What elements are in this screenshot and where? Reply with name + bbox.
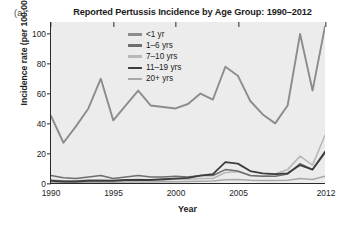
y-axis-tick-mark	[47, 63, 52, 64]
x-axis-tick-mark	[50, 22, 51, 27]
series-line	[51, 153, 325, 178]
y-axis-tick-mark	[47, 93, 52, 94]
chart-title: Reported Pertussis Incidence by Age Grou…	[50, 7, 335, 17]
legend-item[interactable]: 11–19 yrs	[128, 63, 181, 72]
x-axis-tick-mark	[113, 22, 114, 27]
legend-item[interactable]: 1–6 yrs	[128, 41, 181, 50]
y-axis-label: Incidence rate (per 100,000)	[19, 0, 29, 129]
legend-label: 11–19 yrs	[146, 63, 181, 72]
y-axis-tick-mark	[47, 33, 52, 34]
x-axis-tick-label: 1995	[104, 183, 123, 198]
legend-color-swatch	[128, 33, 142, 36]
legend-color-swatch	[128, 44, 142, 46]
x-axis-tick-label: 2005	[229, 183, 248, 198]
x-axis-tick-mark	[238, 22, 239, 27]
series-line	[51, 26, 325, 142]
y-axis-tick-mark	[47, 123, 52, 124]
legend-color-swatch	[128, 55, 142, 57]
x-axis-tick-mark	[325, 22, 326, 27]
legend-item[interactable]: 20+ yrs	[128, 74, 181, 83]
figure-panel: (a) Reported Pertussis Incidence by Age …	[0, 0, 342, 227]
x-axis-tick-mark	[175, 22, 176, 27]
legend-label: <1 yr	[146, 30, 164, 39]
legend-item[interactable]: <1 yr	[128, 30, 181, 39]
legend-color-swatch	[128, 67, 142, 70]
x-axis-tick-label: 1990	[42, 183, 61, 198]
legend-item[interactable]: 7–10 yrs	[128, 52, 181, 61]
plot-area: 02040608010019901995200020052012	[50, 22, 325, 184]
series-lines	[51, 22, 325, 183]
legend-label: 1–6 yrs	[146, 41, 173, 50]
legend: <1 yr1–6 yrs7–10 yrs11–19 yrs20+ yrs	[128, 30, 181, 83]
x-axis-tick-label: 2000	[167, 183, 186, 198]
legend-label: 20+ yrs	[146, 74, 173, 83]
legend-label: 7–10 yrs	[146, 52, 177, 61]
legend-color-swatch	[128, 78, 142, 80]
y-axis-tick-mark	[47, 153, 52, 154]
x-axis-tick-label: 2012	[317, 183, 336, 198]
x-axis-label: Year	[50, 204, 325, 214]
